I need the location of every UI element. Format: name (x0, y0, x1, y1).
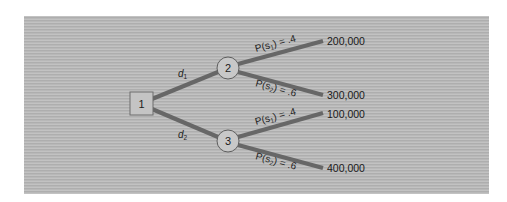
branch-label-d2: d2 (178, 129, 188, 141)
payoff-node2-s1: 200,000 (327, 35, 365, 47)
node-label: 1 (138, 98, 144, 110)
decision-tree: 1 2 3 d1 d2 P(s1) = .4 P(s2) = .6 P(s1) … (0, 0, 507, 202)
decision-node-1: 1 (130, 92, 153, 115)
payoff-node3-s1: 100,000 (327, 108, 365, 120)
chance-node-2: 2 (217, 57, 239, 79)
payoff-node3-s2: 400,000 (327, 162, 365, 174)
branch-d2 (152, 109, 218, 137)
node-label: 3 (225, 135, 231, 147)
payoff-node2-s2: 300,000 (327, 89, 365, 101)
branch-label-d1: d1 (178, 68, 188, 80)
chance-node-3: 3 (217, 130, 239, 152)
node-label: 2 (225, 62, 231, 74)
